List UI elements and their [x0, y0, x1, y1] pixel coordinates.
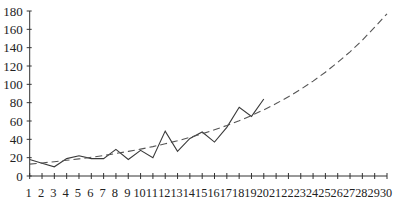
x-tick-label: 3 — [50, 186, 56, 200]
x-tick-label: 11 — [146, 186, 158, 200]
x-tick-label: 6 — [87, 186, 93, 200]
x-tick-label: 1 — [26, 186, 32, 200]
x-tick-label: 2 — [38, 186, 44, 200]
y-tick-label: 60 — [10, 114, 23, 129]
x-tick-label: 28 — [355, 186, 367, 200]
x-tick-label: 19 — [244, 186, 256, 200]
y-tick-label: 180 — [3, 4, 23, 19]
x-tick-label: 17 — [220, 186, 232, 200]
x-tick-label: 14 — [183, 186, 196, 200]
x-tick-label: 12 — [158, 186, 170, 200]
x-tick-label: 4 — [63, 186, 70, 200]
x-axis: 1234567891011121314151617181920212223242… — [26, 173, 393, 200]
x-tick-label: 5 — [75, 186, 81, 200]
x-tick-label: 7 — [99, 186, 105, 200]
x-tick-label: 30 — [380, 186, 392, 200]
x-tick-label: 26 — [331, 186, 343, 200]
y-tick-label: 80 — [10, 95, 23, 110]
line-chart: 020406080100120140160180 123456789101112… — [0, 0, 402, 206]
x-tick-label: 20 — [257, 186, 269, 200]
x-tick-label: 16 — [207, 186, 219, 200]
x-tick-label: 13 — [170, 186, 182, 200]
x-tick-label: 24 — [306, 186, 319, 200]
y-tick-label: 120 — [3, 59, 23, 74]
y-tick-label: 160 — [3, 22, 23, 37]
y-tick-label: 40 — [10, 132, 23, 147]
plot-area — [30, 14, 387, 167]
x-tick-label: 9 — [124, 186, 130, 200]
y-tick-label: 0 — [16, 169, 23, 184]
y-tick-label: 100 — [3, 77, 23, 92]
y-tick-label: 20 — [10, 150, 23, 165]
x-tick-label: 10 — [133, 186, 145, 200]
y-axis: 020406080100120140160180 — [3, 4, 32, 184]
x-tick-label: 29 — [368, 186, 380, 200]
trend-line — [30, 14, 387, 164]
x-tick-label: 27 — [343, 186, 355, 200]
x-tick-label: 8 — [112, 186, 118, 200]
actual-data-line — [30, 99, 264, 167]
x-tick-label: 22 — [281, 186, 293, 200]
x-tick-label: 15 — [195, 186, 207, 200]
x-tick-label: 25 — [318, 186, 330, 200]
x-tick-label: 23 — [294, 186, 306, 200]
y-tick-label: 140 — [3, 40, 23, 55]
x-tick-label: 18 — [232, 186, 244, 200]
x-tick-label: 21 — [269, 186, 281, 200]
